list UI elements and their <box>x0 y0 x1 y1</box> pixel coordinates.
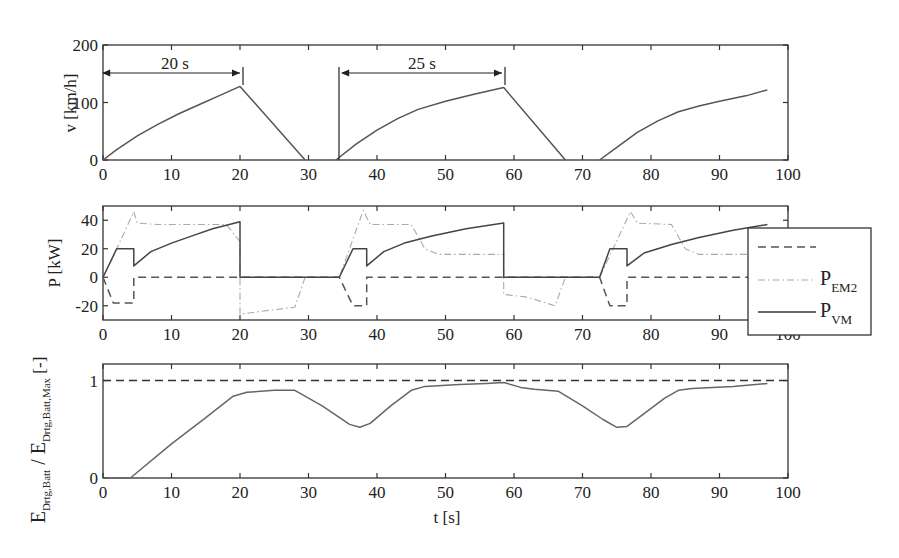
x-tick-label: 10 <box>163 483 180 502</box>
x-tick-label: 60 <box>506 325 523 344</box>
y-tick-label: 20 <box>81 240 98 259</box>
series-line <box>336 88 566 161</box>
x-tick-label: 70 <box>574 483 591 502</box>
x-tick-label: 90 <box>711 325 728 344</box>
series-line <box>103 86 305 160</box>
x-tick-label: 30 <box>300 325 317 344</box>
energy-ratio-panel: 010203040506070809010001 <box>90 364 801 502</box>
x-tick-label: 20 <box>232 483 249 502</box>
x-tick-label: 80 <box>643 483 660 502</box>
x-tick-label: 70 <box>574 325 591 344</box>
figure: 01020304050607080901000100200 0102030405… <box>0 0 899 558</box>
x-tick-label: 100 <box>775 483 801 502</box>
series-line <box>103 222 767 278</box>
plot-frame <box>103 206 788 320</box>
series-line <box>103 383 767 479</box>
x-tick-label: 50 <box>437 165 454 184</box>
duration-annotation-25s: 25 s <box>339 54 505 160</box>
x-tick-label: 30 <box>300 483 317 502</box>
svg-text:20 s: 20 s <box>161 54 189 73</box>
x-tick-label: 40 <box>369 165 386 184</box>
x-tick-label: 100 <box>775 165 801 184</box>
x-tick-label: 20 <box>232 165 249 184</box>
power-panel: 0102030405060708090100-2002040 <box>75 206 800 344</box>
svg-text:25 s: 25 s <box>408 54 436 73</box>
x-tick-label: 30 <box>300 165 317 184</box>
y-tick-label: 0 <box>90 469 99 488</box>
x-tick-label: 10 <box>163 325 180 344</box>
power-ylabel: P [kW] <box>45 239 64 288</box>
time-xlabel: t [s] <box>434 508 461 527</box>
duration-annotation-20s: 20 s <box>103 54 243 85</box>
y-tick-label: 40 <box>81 211 98 230</box>
x-tick-label: 20 <box>232 325 249 344</box>
series-line <box>600 90 768 160</box>
x-tick-label: 80 <box>643 165 660 184</box>
y-tick-label: 1 <box>90 372 99 391</box>
x-tick-label: 50 <box>437 483 454 502</box>
x-tick-label: 60 <box>506 483 523 502</box>
y-tick-label: 200 <box>73 36 99 55</box>
energy-ratio-ylabel: EDrtg,Batt / EDrtg,Batt,Max [-] <box>27 357 52 524</box>
power-legend: PEM2 PVM <box>748 228 871 335</box>
x-tick-label: 50 <box>437 325 454 344</box>
x-tick-label: 10 <box>163 165 180 184</box>
x-tick-label: 40 <box>369 483 386 502</box>
y-tick-label: 0 <box>90 268 99 287</box>
y-tick-label: 0 <box>90 151 99 170</box>
x-tick-label: 0 <box>99 483 108 502</box>
x-tick-label: 60 <box>506 165 523 184</box>
x-tick-label: 80 <box>643 325 660 344</box>
x-tick-label: 0 <box>99 325 108 344</box>
x-tick-label: 40 <box>369 325 386 344</box>
series-line <box>103 210 767 314</box>
x-tick-label: 0 <box>99 165 108 184</box>
velocity-ylabel: v [km/h] <box>61 73 80 132</box>
x-tick-label: 70 <box>574 165 591 184</box>
series-line <box>103 277 767 306</box>
x-tick-label: 90 <box>711 165 728 184</box>
x-tick-label: 90 <box>711 483 728 502</box>
y-tick-label: -20 <box>75 297 98 316</box>
